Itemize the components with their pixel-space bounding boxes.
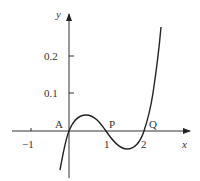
tick-label-02: 0.2 (44, 50, 58, 62)
y-axis-label: y (55, 8, 61, 20)
x-axis-label: x (181, 138, 187, 150)
point-label-q: Q (149, 118, 157, 130)
tick-label-1: 1 (104, 138, 110, 150)
plot-svg: y x −1 1 2 0.1 0.2 A P Q (0, 0, 200, 181)
point-label-a: A (55, 118, 63, 130)
tick-label-2: 2 (141, 138, 147, 150)
chart: y x −1 1 2 0.1 0.2 A P Q (0, 0, 200, 181)
tick-label-01: 0.1 (44, 87, 58, 99)
point-label-p: P (109, 118, 115, 130)
tick-label-neg1: −1 (22, 138, 34, 150)
